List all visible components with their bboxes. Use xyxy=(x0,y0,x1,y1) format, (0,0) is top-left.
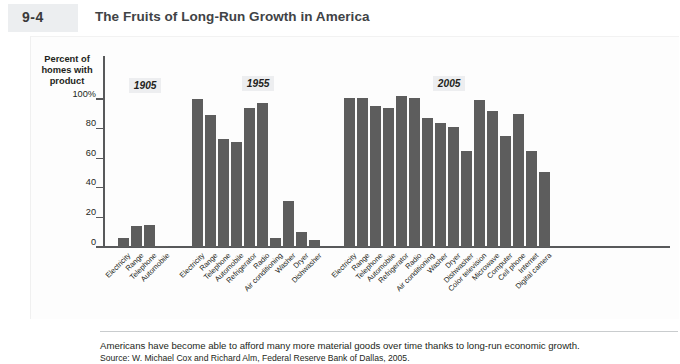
bar xyxy=(383,108,394,247)
bar xyxy=(205,115,216,247)
bar xyxy=(296,232,307,247)
bar xyxy=(500,136,511,247)
y-tick-label: 0 xyxy=(34,236,96,246)
bar xyxy=(409,98,420,247)
bar xyxy=(370,106,381,247)
y-tick-label: 40 xyxy=(34,177,96,187)
bar xyxy=(144,225,155,247)
bar xyxy=(157,246,168,247)
y-tick-mark xyxy=(96,217,104,218)
bar xyxy=(270,238,281,247)
bar xyxy=(448,127,459,247)
bar xyxy=(526,151,537,247)
bar xyxy=(192,99,203,247)
bar xyxy=(244,108,255,247)
bar xyxy=(118,238,129,247)
bar xyxy=(474,100,485,247)
y-axis-title: Percent of homes with product xyxy=(36,54,98,88)
plot-area xyxy=(104,99,670,247)
bar xyxy=(131,226,142,247)
bar xyxy=(218,139,229,247)
bar xyxy=(344,98,355,247)
bar xyxy=(461,151,472,247)
bar xyxy=(539,172,550,247)
y-tick-label: 100% xyxy=(34,88,96,98)
bar xyxy=(257,103,268,247)
y-tick-mark xyxy=(96,187,104,188)
y-tick-label: 60 xyxy=(34,147,96,157)
bar xyxy=(422,118,433,247)
y-tick-mark xyxy=(96,128,104,129)
bar xyxy=(309,240,320,247)
group-year-label: 1955 xyxy=(242,76,275,91)
caption-line-1: Americans have become able to afford man… xyxy=(100,340,678,352)
bar xyxy=(357,98,368,247)
group-year-label: 2005 xyxy=(433,76,466,91)
figure-number: 9-4 xyxy=(22,9,44,25)
bar xyxy=(231,142,242,247)
group-year-label: 1905 xyxy=(129,78,162,93)
figure-caption: Americans have become able to afford man… xyxy=(100,340,678,364)
bar xyxy=(487,111,498,247)
y-tick-mark xyxy=(96,246,104,247)
y-tick-label: 80 xyxy=(34,118,96,128)
caption-source: Source: W. Michael Cox and Richard Alm, … xyxy=(100,352,678,364)
caption-divider xyxy=(100,331,678,332)
bar xyxy=(513,114,524,247)
bar xyxy=(396,96,407,247)
figure-title: The Fruits of Long-Run Growth in America xyxy=(95,9,370,24)
bar xyxy=(283,201,294,247)
y-tick-mark xyxy=(96,158,104,159)
bar xyxy=(435,123,446,247)
y-tick-label: 20 xyxy=(34,206,96,216)
y-tick-mark xyxy=(96,98,104,99)
figure-header: FIGURE 9-4 The Fruits of Long-Run Growth… xyxy=(0,4,680,34)
